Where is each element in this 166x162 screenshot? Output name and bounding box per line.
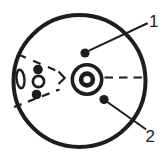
callout-2-label: 2 (146, 127, 155, 146)
callout-1: 1 (80, 12, 158, 58)
diagram-canvas: 1 2 (0, 0, 166, 162)
callout-1-label: 1 (149, 12, 158, 31)
center-bullseye (72, 65, 101, 94)
left-upper-dot (33, 65, 43, 75)
left-lower-dot (32, 90, 42, 100)
target-cross-section-diagram: 1 2 (0, 0, 166, 162)
left-ellipse-particle (16, 69, 26, 88)
center-ring-inner (81, 74, 93, 86)
left-open-circle (33, 76, 44, 87)
left-particle-cluster (16, 65, 44, 100)
callout-2: 2 (99, 95, 155, 146)
point-1-dot (80, 48, 89, 57)
center-ring-outer (72, 65, 101, 94)
beam-arrowhead-icon (59, 72, 65, 85)
